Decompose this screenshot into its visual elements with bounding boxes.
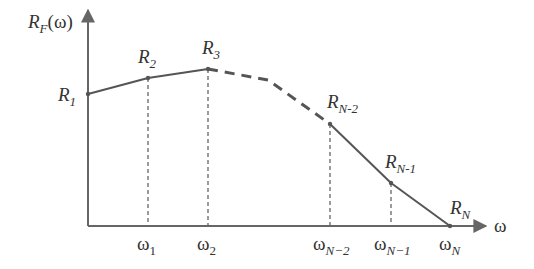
curve-segment [148, 69, 208, 78]
breakpoint-r3 [206, 67, 210, 71]
point-label-rn-1: RN-1 [384, 151, 416, 176]
x-axis-label: ω [494, 215, 507, 236]
frequency-response-diagram: RF(ω) ω R1R2R3RN-2RN-1RN ω1ω2ωN−2ωN−1ωN [0, 0, 534, 269]
point-label-r1: R1 [57, 84, 76, 109]
point-labels: R1R2R3RN-2RN-1RN [57, 37, 472, 222]
breakpoint-r1 [86, 92, 90, 96]
curve-segment-dashed [208, 69, 330, 124]
point-label-r3: R3 [201, 37, 221, 62]
diagram-canvas: RF(ω) ω R1R2R3RN-2RN-1RN ω1ω2ωN−2ωN−1ωN [0, 0, 534, 269]
omega-label-rn-2: ωN−2 [313, 233, 350, 258]
curve-segment [330, 124, 391, 183]
omega-label-r3: ω2 [197, 233, 216, 258]
response-curve [88, 69, 450, 226]
point-label-rn-2: RN-2 [326, 91, 359, 116]
omega-label-rn-1: ωN−1 [374, 233, 410, 258]
breakpoint-rn-2 [328, 122, 332, 126]
curve-segment [391, 183, 450, 226]
curve-segment [88, 78, 148, 94]
breakpoint-r2 [146, 76, 150, 80]
omega-label-rn: ωN [439, 233, 462, 258]
omega-label-r2: ω1 [137, 233, 156, 258]
breakpoints [86, 67, 452, 228]
point-label-rn: RN [449, 197, 472, 222]
point-label-r2: R2 [137, 46, 157, 71]
breakpoint-rn [448, 224, 452, 228]
omega-tick-labels: ω1ω2ωN−2ωN−1ωN [137, 233, 462, 258]
breakpoint-rn-1 [389, 181, 393, 185]
y-axis-label: RF(ω) [27, 11, 73, 36]
